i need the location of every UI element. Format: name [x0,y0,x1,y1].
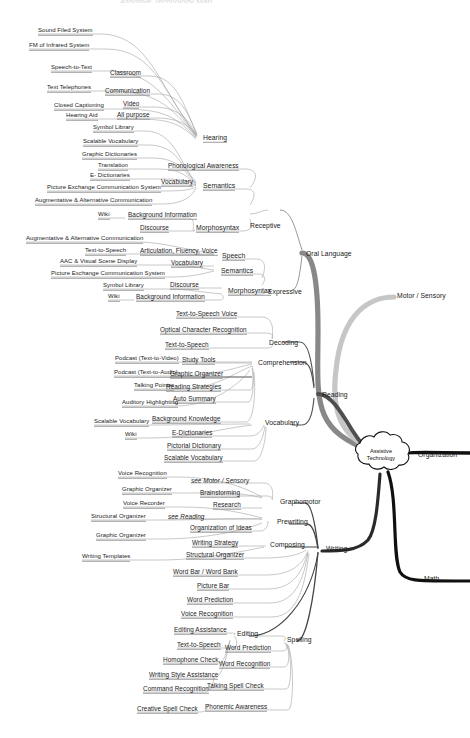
mindmap-node-n087[interactable]: Editing [237,630,258,637]
mindmap-node-n076[interactable]: Graphic Organizer [96,532,146,541]
mindmap-node-n019[interactable]: Phonological Awareness [168,162,239,171]
mindmap-node-n068[interactable]: Brainstorming [200,489,240,498]
mindmap-node-n035[interactable]: Symbol Library [103,282,144,291]
mindmap-node-n002[interactable]: FM of Infrared System [29,42,89,51]
mindmap-node-n013[interactable]: Scalable Vocabulary [83,138,138,147]
mindmap-node-n065[interactable]: Voice Recognition [118,470,167,479]
mindmap-node-n080[interactable]: Structural Organizer [186,551,244,560]
mindmap-node-n086[interactable]: Editing Assistance [174,626,227,635]
mindmap-node-n098[interactable]: Math [424,575,439,582]
mindmap-node-n059[interactable]: Vocabulary [265,419,299,426]
mindmap-node-n067[interactable]: Graphic Organizer [122,486,172,495]
mindmap-node-n041[interactable]: Oral Language [306,250,352,257]
mindmap-node-n082[interactable]: Word Bar / Word Bank [173,568,238,577]
mindmap-node-n051[interactable]: Graphic Organizer [170,370,223,379]
mindmap-node-n056[interactable]: Background Knowledge [152,415,221,424]
mindmap-node-n046[interactable]: Decoding [269,339,298,346]
mindmap-node-n061[interactable]: Wiki [125,431,137,440]
mindmap-node-n093[interactable]: Writing Style Assistance [149,671,218,680]
mindmap-node-n023[interactable]: Background Information [128,211,197,220]
mindmap-node-n029[interactable]: Articulation, Fluency, Voice [140,247,218,256]
mindmap-node-n011[interactable]: Hearing [203,134,227,143]
mindmap-node-n084[interactable]: Word Prediction [187,596,233,605]
mindmap-node-n010[interactable]: All purpose [117,111,150,120]
mindmap-node-n083[interactable]: Picture Bar [197,582,229,591]
mindmap-node-n085[interactable]: Voice Recognition [181,610,233,619]
mindmap-node-n094[interactable]: Command Recognition [143,685,209,694]
mindmap-node-n012[interactable]: Symbol Library [93,124,134,133]
mindmap-node-n018[interactable]: Augmentative & Alternative Communication [35,197,152,206]
mindmap-node-n005[interactable]: Closed Captioning [54,102,104,111]
mindmap-node-n028[interactable]: Text-to-Speech [85,247,126,256]
mindmap-node-n090[interactable]: Word Prediction [225,644,271,653]
mindmap-node-n072[interactable]: Structural Organizer [91,513,146,522]
mindmap-node-n031[interactable]: AAC & Visual Scene Display [60,258,137,267]
mindmap-node-n070[interactable]: Voice Recorder [123,500,165,509]
mindmap-node-n032[interactable]: Vocabulary [171,259,203,268]
mindmap-node-n057[interactable]: Reading [322,391,348,398]
mindmap-node-n020[interactable]: Vocabulary [161,178,193,187]
mindmap-node-n096[interactable]: Creative Spell Check [137,705,198,714]
mindmap-node-n047[interactable]: Podcast (Text-to-Video) [115,355,179,364]
mindmap-node-n039[interactable]: Wiki [108,293,120,302]
mindmap-node-n054[interactable]: Auto Summary [173,395,216,404]
mindmap-node-n049[interactable]: Comprehension [258,359,307,366]
trunk-writing [322,474,380,551]
mindmap-node-n038[interactable]: Expressive [268,288,302,295]
mindmap-node-n074[interactable]: Prewriting [277,518,308,525]
mindmap-node-n030[interactable]: Speech [222,252,245,261]
mindmap-node-n048[interactable]: Study Tools [182,356,215,365]
mindmap-node-n017[interactable]: Picture Exchange Communication System [47,184,161,193]
mindmap-node-n058[interactable]: Scalable Vocabulary [94,418,149,427]
mindmap-node-n027[interactable]: Augmentative & Alternative Communication [26,235,143,244]
mindmap-node-n004[interactable]: Text Telephones [47,84,91,93]
mindmap-node-n044[interactable]: Optical Character Recognition [160,326,247,335]
mindmap-node-n007[interactable]: Classroom [110,69,141,78]
mindmap-edges [0,0,470,738]
mindmap-node-n050[interactable]: Podcast (Text-to-Audio) [114,369,178,378]
mindmap-node-n075[interactable]: Organization of Ideas [190,524,252,533]
mindmap-node-n009[interactable]: Video [123,100,139,109]
mindmap-node-n091[interactable]: Homophone Check [163,656,218,665]
mindmap-node-n016[interactable]: E- Dictionaries [90,172,130,181]
mindmap-node-n089[interactable]: Text-to-Speech [177,641,221,650]
mindmap-node-n092[interactable]: Word Recognition [219,660,270,669]
mindmap-node-n077[interactable]: Writing Strategy [192,539,238,548]
central-node[interactable]: Assistive Technology [353,438,409,472]
mindmap-node-n066[interactable]: see Motor / Sensory [191,477,249,484]
mindmap-node-n060[interactable]: E-Dictionaries [172,429,212,438]
mindmap-node-n053[interactable]: Reading Strategies [166,383,221,392]
mindmap-node-n097[interactable]: Phonemic Awareness [205,703,267,712]
mindmap-node-n078[interactable]: Composing [270,541,305,548]
mindmap-node-n034[interactable]: Semantics [221,267,253,276]
mindmap-node-n043[interactable]: Text-to-Speech Voice [176,310,237,319]
mindmap-node-n064[interactable]: Organization [418,451,457,458]
mindmap-node-n006[interactable]: Hearing Aid [66,112,98,121]
mindmap-node-n088[interactable]: Spelling [287,636,312,643]
mindmap-node-n069[interactable]: Graphomotor [280,498,321,505]
mindmap-node-n045[interactable]: Text-to-Speech [165,341,209,350]
mindmap-node-n003[interactable]: Speech-to-Text [51,64,92,73]
mindmap-node-n062[interactable]: Pictorial Dictionary [167,442,221,451]
mindmap-node-n040[interactable]: Background Information [136,293,205,302]
mindmap-node-n022[interactable]: Wiki [98,211,110,220]
mindmap-node-n025[interactable]: Morphosyntax [196,224,239,233]
mindmap-node-n033[interactable]: Picture Exchange Communication System [51,270,165,279]
mindmap-node-n036[interactable]: Discourse [170,281,199,290]
mindmap-node-n063[interactable]: Scalable Vocabulary [164,454,223,463]
mindmap-node-n073[interactable]: see Reading [168,513,204,520]
mindmap-node-n037[interactable]: Morphosyntax [228,287,271,296]
mindmap-node-n001[interactable]: Sound Filed System [38,27,93,36]
mindmap-node-n014[interactable]: Graphic Dictionaries [82,151,137,160]
mindmap-node-n021[interactable]: Semantics [203,182,235,191]
mindmap-node-n024[interactable]: Discourse [140,224,169,233]
mindmap-node-n026[interactable]: Receptive [250,222,281,229]
mindmap-node-n055[interactable]: Auditory Highlighting [122,399,178,408]
mindmap-node-n008[interactable]: Communication [105,87,150,96]
mindmap-node-n042[interactable]: Motor / Sensory [397,292,446,299]
mindmap-node-n079[interactable]: Writing Templates [82,553,130,562]
mindmap-node-n015[interactable]: Translation [98,162,128,171]
mindmap-node-n071[interactable]: Research [213,501,241,510]
mindmap-node-n081[interactable]: Writing [326,545,347,552]
mindmap-node-n095[interactable]: Talking Spell Check [207,682,264,691]
